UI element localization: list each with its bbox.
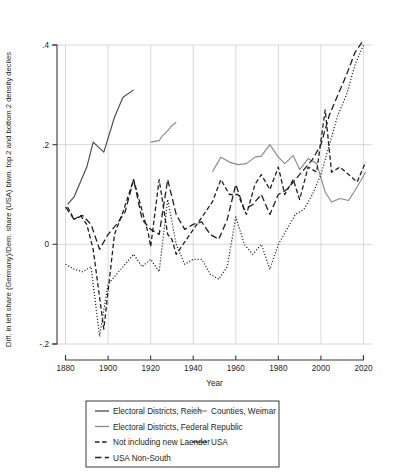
legend-label-5: USA Non-South — [113, 454, 171, 463]
line-chart: 18801900192019401960198020002020-.20.2.4… — [0, 0, 395, 474]
chart-figure: 18801900192019401960198020002020-.20.2.4… — [0, 0, 395, 474]
x-tick-label: 1980 — [269, 364, 288, 373]
x-tick-label: 2000 — [312, 364, 331, 373]
legend-label-0: Electoral Districts, Reich — [113, 407, 202, 416]
series-line-2 — [212, 145, 365, 202]
x-tick-label: 2020 — [354, 364, 373, 373]
series-line-0 — [68, 90, 134, 205]
legend-label-1: Counties, Weimar — [211, 407, 276, 416]
y-axis-label: Diff. in left share (Germany)/Dem. share… — [4, 52, 13, 347]
legend-label-4: USA — [211, 438, 228, 447]
y-tick-label: -.2 — [39, 340, 49, 349]
x-axis-label: Year — [206, 379, 223, 388]
y-tick-label: 0 — [44, 240, 49, 249]
series-line-4 — [66, 45, 364, 337]
x-tick-label: 1900 — [99, 364, 118, 373]
y-axis-title: Diff. in left share (Germany)/Dem. share… — [4, 52, 13, 347]
x-axis-title: Year — [206, 379, 223, 388]
y-tick-label: .4 — [42, 41, 49, 50]
x-tick-label: 1880 — [56, 364, 75, 373]
y-axis-spine — [52, 45, 57, 344]
x-axis-spine — [66, 355, 364, 360]
series-line-1 — [151, 122, 177, 142]
x-tick-label: 1960 — [227, 364, 246, 373]
chart-legend: Electoral Districts, ReichCounties, Weim… — [86, 401, 279, 467]
legend-label-2: Electoral Districts, Federal Republic — [113, 423, 243, 432]
x-tick-label: 1920 — [142, 364, 161, 373]
plot-axes — [52, 45, 363, 360]
axis-tick-labels: 18801900192019401960198020002020-.20.2.4 — [39, 41, 373, 373]
plot-gridlines — [57, 45, 372, 344]
y-tick-label: .2 — [42, 141, 49, 150]
x-tick-label: 1940 — [184, 364, 203, 373]
